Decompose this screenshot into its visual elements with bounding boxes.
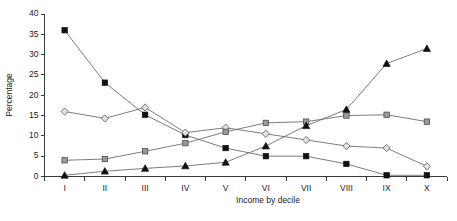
y-tick-label: 25 xyxy=(29,69,39,79)
data-point xyxy=(142,104,149,111)
y-tick-label: 20 xyxy=(29,90,39,100)
data-point xyxy=(263,153,268,158)
x-tick-label: V xyxy=(223,183,229,193)
data-point xyxy=(424,173,429,178)
series-layer xyxy=(61,28,430,179)
data-point xyxy=(222,159,229,165)
data-point xyxy=(383,144,390,151)
x-tick-group: IIIIIIIVVVIVIIVIIIIXX xyxy=(45,177,448,193)
x-axis: IIIIIIIVVVIVIIVIIIIXX Income by decile xyxy=(45,177,448,206)
y-tick-label: 15 xyxy=(29,110,39,120)
y-axis: 0510152025303540 Percentage xyxy=(4,8,45,181)
markers-filled-square xyxy=(62,28,430,178)
y-axis-title: Percentage xyxy=(4,73,14,117)
data-point xyxy=(343,142,350,149)
line-chart: 0510152025303540 Percentage IIIIIIIVVVIV… xyxy=(0,0,457,221)
x-axis-title: Income by decile xyxy=(236,195,300,205)
data-point xyxy=(142,149,147,154)
x-tick-label: I xyxy=(63,183,65,193)
series-path xyxy=(65,115,427,161)
series-path xyxy=(65,30,427,175)
x-tick-label: VII xyxy=(301,183,311,193)
data-point xyxy=(262,142,269,148)
data-point xyxy=(263,120,268,125)
markers-filled-triangle xyxy=(61,45,430,178)
data-point xyxy=(344,113,349,118)
data-point xyxy=(223,129,228,134)
data-point xyxy=(384,173,389,178)
markers-grey-square xyxy=(62,112,430,163)
data-point xyxy=(383,60,390,66)
data-point xyxy=(142,112,147,117)
data-point xyxy=(423,45,430,51)
data-point xyxy=(62,28,67,33)
y-tick-group: 0510152025303540 xyxy=(29,8,44,181)
chart-container: 0510152025303540 Percentage IIIIIIIVVVIV… xyxy=(0,0,457,221)
x-tick-label: VIII xyxy=(340,183,353,193)
data-point xyxy=(384,112,389,117)
data-point xyxy=(101,115,108,122)
y-tick-label: 10 xyxy=(29,130,39,140)
x-tick-label: VI xyxy=(262,183,270,193)
data-point xyxy=(303,153,308,158)
data-point xyxy=(303,136,310,143)
y-tick-label: 35 xyxy=(29,29,39,39)
x-tick-label: IV xyxy=(181,183,189,193)
series-path xyxy=(65,107,427,166)
data-point xyxy=(61,108,68,115)
x-tick-label: III xyxy=(142,183,149,193)
y-tick-label: 40 xyxy=(29,8,39,18)
data-point xyxy=(423,163,430,170)
data-point xyxy=(262,130,269,137)
data-point xyxy=(223,145,228,150)
data-point xyxy=(424,119,429,124)
x-tick-label: II xyxy=(103,183,108,193)
y-tick-label: 5 xyxy=(34,150,39,160)
series-filled-square xyxy=(65,30,427,175)
y-tick-label: 0 xyxy=(34,171,39,181)
data-point xyxy=(102,156,107,161)
data-point xyxy=(344,161,349,166)
series-grey-square xyxy=(65,115,427,161)
data-point xyxy=(62,158,67,163)
data-point xyxy=(102,80,107,85)
x-tick-label: X xyxy=(424,183,430,193)
x-tick-label: IX xyxy=(383,183,391,193)
markers-open-diamond xyxy=(61,104,430,170)
series-open-diamond xyxy=(65,107,427,166)
data-point xyxy=(183,140,188,145)
y-tick-label: 30 xyxy=(29,49,39,59)
